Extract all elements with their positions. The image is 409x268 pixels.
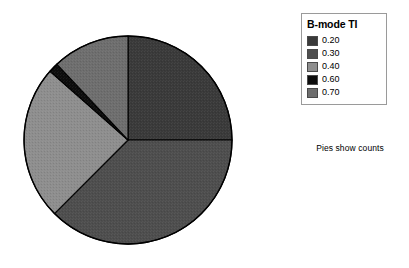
legend-item: 0.20: [307, 34, 381, 47]
pie-chart-plot-area: [0, 0, 280, 268]
legend-entries: 0.200.300.400.600.70: [307, 34, 381, 99]
legend-swatch: [307, 49, 318, 59]
pie-texture-overlay: [24, 36, 232, 244]
legend-item-label: 0.70: [322, 87, 340, 98]
chart-caption: Pies show counts: [300, 143, 400, 153]
legend-swatch: [307, 62, 318, 72]
legend-item-label: 0.20: [322, 35, 340, 46]
legend-item: 0.40: [307, 60, 381, 73]
pie-chart-figure: B-mode TI 0.200.300.400.600.70 Pies show…: [0, 0, 409, 268]
legend-swatch: [307, 88, 318, 98]
legend-item: 0.30: [307, 47, 381, 60]
legend-swatch: [307, 36, 318, 46]
legend-item-label: 0.30: [322, 48, 340, 59]
legend-item-label: 0.40: [322, 61, 340, 72]
pie-chart-svg: [0, 0, 280, 268]
legend-title: B-mode TI: [307, 18, 381, 31]
legend-item: 0.60: [307, 73, 381, 86]
legend-item-label: 0.60: [322, 74, 340, 85]
legend: B-mode TI 0.200.300.400.600.70: [301, 13, 387, 105]
legend-item: 0.70: [307, 86, 381, 99]
legend-swatch: [307, 75, 318, 85]
